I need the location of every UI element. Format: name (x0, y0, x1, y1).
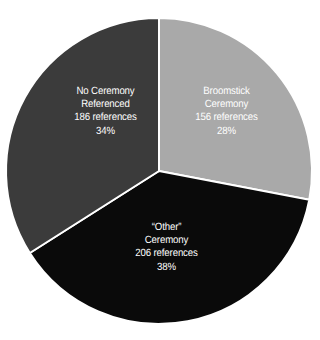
slice-label-line-title-1: No Ceremony (54, 85, 158, 98)
slice-label-percent: 34% (54, 125, 158, 138)
slice-label-references: 186 references (54, 111, 158, 124)
slice-label-broomstick-ceremony: Broomstick Ceremony 156 references 28% (175, 85, 279, 138)
slice-label-references: 156 references (175, 111, 279, 124)
slice-label-references: 206 references (115, 247, 219, 260)
slice-label-line-title-2: Referenced (54, 98, 158, 111)
slice-label-line-title-2: Ceremony (115, 234, 219, 247)
slice-label-no-ceremony-referenced: No Ceremony Referenced 186 references 34… (54, 85, 158, 138)
pie-chart: No Ceremony Referenced 186 references 34… (0, 0, 320, 340)
slice-label-line-title-2: Ceremony (175, 98, 279, 111)
slice-label-percent: 38% (115, 261, 219, 274)
slice-label-other-ceremony: “Other” Ceremony 206 references 38% (115, 221, 219, 274)
slice-label-percent: 28% (175, 125, 279, 138)
slice-label-line-title-1: “Other” (115, 221, 219, 234)
pie-slice-group (6, 18, 312, 324)
pie-chart-canvas (0, 0, 320, 340)
slice-label-line-title-1: Broomstick (175, 85, 279, 98)
